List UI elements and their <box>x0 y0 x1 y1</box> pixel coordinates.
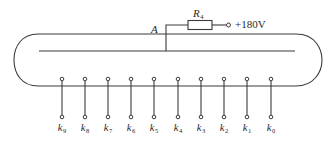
cathode-symbol: k <box>220 122 225 133</box>
cathode-terminal <box>152 115 156 119</box>
cathode-symbol: k <box>267 122 272 133</box>
cathode-terminal <box>106 115 110 119</box>
cathode-inner-node <box>199 77 203 81</box>
cathode-symbol: k <box>104 122 109 133</box>
cathode-subscript: 6 <box>132 127 135 134</box>
cathode-symbol: k <box>197 122 202 133</box>
cathode-pin <box>106 77 110 119</box>
cathode-pin <box>60 77 64 119</box>
resistor-symbol: R <box>193 7 200 19</box>
cathode-inner-node <box>60 77 64 81</box>
cathode-subscript: 7 <box>109 127 112 134</box>
cathode-symbol: k <box>58 122 63 133</box>
cathode-label: k0 <box>263 123 279 135</box>
cathode-pin <box>176 77 180 119</box>
resistor-r4 <box>188 21 212 30</box>
cathode-symbol: k <box>150 122 155 133</box>
cathode-pin <box>199 77 203 119</box>
resistor-subscript: 4 <box>200 13 203 20</box>
cathode-pin <box>152 77 156 119</box>
supply-terminal <box>227 23 231 27</box>
cathode-label: k8 <box>77 123 93 135</box>
cathode-label: k5 <box>146 123 162 135</box>
cathode-inner-node <box>152 77 156 81</box>
cathode-inner-node <box>129 77 133 81</box>
cathode-subscript: 4 <box>179 127 182 134</box>
cathode-symbol: k <box>81 122 86 133</box>
cathode-label: k7 <box>100 123 116 135</box>
cathode-symbol: k <box>174 122 179 133</box>
cathode-inner-node <box>245 77 249 81</box>
cathode-pin <box>222 77 226 119</box>
cathode-subscript: 9 <box>63 127 66 134</box>
anode-label: A <box>151 24 158 35</box>
cathode-label: k6 <box>123 123 139 135</box>
cathode-terminal <box>269 115 273 119</box>
cathode-inner-node <box>222 77 226 81</box>
cathode-pins <box>60 77 273 119</box>
anode-lead-wire <box>166 25 188 51</box>
cathode-pin <box>83 77 87 119</box>
circuit-drawing <box>0 0 329 143</box>
cathode-label: k1 <box>239 123 255 135</box>
resistor-label: R4 <box>193 8 203 21</box>
supply-voltage-label: +180V <box>235 19 266 30</box>
cathode-pin <box>129 77 133 119</box>
cathode-symbol: k <box>243 122 248 133</box>
cathode-pin <box>269 77 273 119</box>
cathode-label: k4 <box>170 123 186 135</box>
cathode-terminal <box>129 115 133 119</box>
cathode-terminal <box>199 115 203 119</box>
cathode-symbol: k <box>127 122 132 133</box>
counter-tube-diagram: R4 A +180V k9k8k7k6k5k4k3k2k1k0 <box>0 0 329 143</box>
cathode-terminal <box>245 115 249 119</box>
cathode-label: k3 <box>193 123 209 135</box>
cathode-terminal <box>60 115 64 119</box>
cathode-inner-node <box>269 77 273 81</box>
cathode-inner-node <box>106 77 110 81</box>
cathode-inner-node <box>83 77 87 81</box>
cathode-label: k2 <box>216 123 232 135</box>
cathode-subscript: 2 <box>225 127 228 134</box>
cathode-subscript: 0 <box>272 127 275 134</box>
cathode-terminal <box>83 115 87 119</box>
cathode-subscript: 1 <box>248 127 251 134</box>
cathode-subscript: 8 <box>86 127 89 134</box>
cathode-subscript: 5 <box>155 127 158 134</box>
cathode-subscript: 3 <box>202 127 205 134</box>
cathode-terminal <box>176 115 180 119</box>
cathode-pin <box>245 77 249 119</box>
cathode-label: k9 <box>54 123 70 135</box>
cathode-inner-node <box>176 77 180 81</box>
cathode-terminal <box>222 115 226 119</box>
